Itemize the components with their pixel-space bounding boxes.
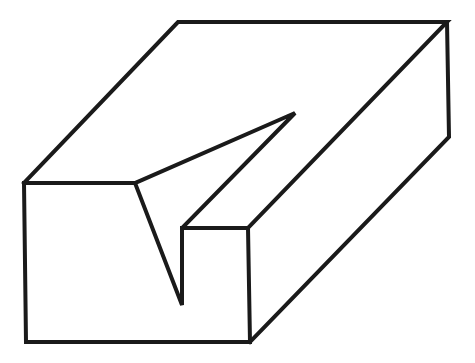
- notch-outline: [135, 113, 295, 305]
- block-svg: [0, 0, 475, 363]
- right-face-outline: [250, 22, 449, 342]
- front-face-outline: [24, 183, 250, 342]
- top-face-outline: [24, 22, 447, 228]
- isometric-block-drawing: [0, 0, 475, 363]
